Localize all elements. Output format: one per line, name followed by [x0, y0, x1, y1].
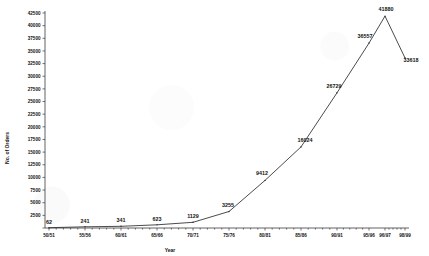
data-point-labels: 6224134162311293255941216024267293655741…: [46, 6, 419, 228]
x-axis-tick-label: 96/97: [379, 233, 391, 238]
x-axis-tick-label: 55/56: [79, 233, 91, 238]
y-axis-tick-label: 7500: [30, 188, 41, 193]
data-point-marker: [264, 180, 265, 181]
data-point-label: 241: [81, 218, 90, 224]
data-point-label: 36557: [358, 33, 373, 39]
data-point-marker: [48, 227, 49, 228]
x-axis-tick-label: 90/91: [331, 233, 343, 238]
y-axis-tick-label: 25000: [28, 99, 41, 104]
x-axis-tick-label: 65/66: [151, 233, 163, 238]
y-axis-tick-label: 10000: [28, 175, 41, 180]
data-point-marker: [156, 224, 157, 225]
y-axis-tick-label: 40000: [28, 23, 41, 28]
data-point-label: 16024: [298, 137, 313, 143]
series-line-no-of-orders: [49, 16, 405, 228]
data-point-label: 41880: [379, 6, 394, 12]
x-axis-tick-label: 75/76: [223, 233, 235, 238]
data-point-label: 1129: [187, 213, 199, 219]
y-axis-title: No. of Orders: [4, 132, 10, 164]
y-axis-tick-label: 17500: [28, 137, 41, 142]
y-axis-tick-label: 27500: [28, 87, 41, 92]
x-axis-tick-label: 80/81: [259, 233, 271, 238]
y-axis-tick-label: 37500: [28, 36, 41, 41]
chart-canvas: 2500500075001000012500150001750020000225…: [0, 0, 429, 256]
y-axis-tick-label: 42500: [28, 11, 41, 16]
data-point-marker: [336, 92, 337, 93]
y-axis-tick-label: 15000: [28, 150, 41, 155]
x-axis-tick-label: 70/71: [187, 233, 199, 238]
data-point-label: 623: [153, 216, 162, 222]
y-axis-tick-label: 30000: [28, 74, 41, 79]
y-axis-tick-label: 22500: [28, 112, 41, 117]
data-point-marker: [300, 146, 301, 147]
y-axis: 2500500075001000012500150001750020000225…: [28, 11, 45, 228]
x-axis-tick-label: 50/51: [43, 233, 55, 238]
line-chart: 2500500075001000012500150001750020000225…: [0, 0, 429, 256]
y-axis-tick-label: 32500: [28, 61, 41, 66]
data-point-marker: [192, 222, 193, 223]
data-point-label: 33618: [404, 57, 419, 63]
data-point-label: 62: [46, 219, 52, 225]
data-point-marker: [368, 42, 369, 43]
x-axis-title: Year: [165, 247, 176, 253]
y-axis-tick-label: 2500: [30, 213, 41, 218]
x-axis-tick-label: 98/99: [399, 233, 411, 238]
y-axis-tick-label: 12500: [28, 162, 41, 167]
data-point-marker: [84, 226, 85, 227]
data-point-label: 3255: [222, 202, 234, 208]
x-axis-tick-label: 60/61: [115, 233, 127, 238]
y-axis-tick-label: 35000: [28, 49, 41, 54]
data-point-label: 26729: [327, 83, 342, 89]
data-point-label: 341: [117, 217, 126, 223]
data-point-marker: [120, 226, 121, 227]
x-axis-tick-label: 85/86: [295, 233, 307, 238]
y-axis-tick-label: 5000: [30, 200, 41, 205]
data-point-marker: [384, 15, 385, 16]
data-point-marker: [228, 211, 229, 212]
x-axis: 50/5155/5660/6165/6670/7175/7680/8185/86…: [43, 228, 411, 238]
data-point-label: 9412: [256, 170, 268, 176]
x-axis-tick-label: 95/96: [363, 233, 375, 238]
y-axis-tick-label: 20000: [28, 125, 41, 130]
